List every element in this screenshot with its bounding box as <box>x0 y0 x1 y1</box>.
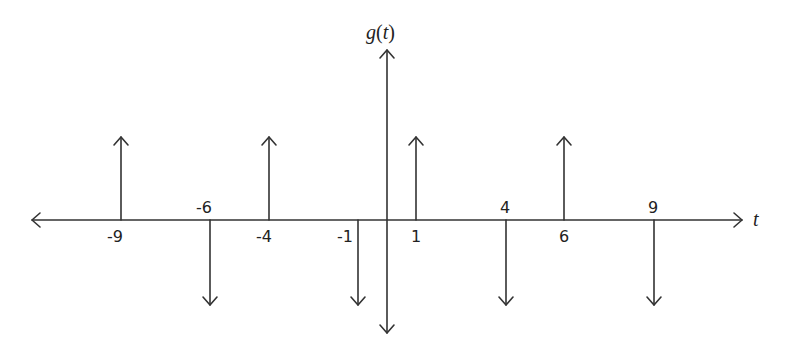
impulse-9 <box>647 220 661 305</box>
tick-label-6: 6 <box>559 229 569 245</box>
tick-label-9: 9 <box>648 200 658 216</box>
impulse-1 <box>409 137 423 220</box>
tick-label-neg6: -6 <box>196 200 212 216</box>
tick-label-neg1: -1 <box>337 229 353 245</box>
impulse-diagram: g(t) t -9 -6 -4 -1 1 4 6 9 <box>0 0 787 353</box>
x-axis-title: t <box>753 209 759 229</box>
tick-label-4: 4 <box>500 200 510 216</box>
tick-label-neg4: -4 <box>256 229 272 245</box>
impulse-neg1 <box>351 220 365 305</box>
impulse-6 <box>557 137 571 220</box>
impulse-neg9 <box>114 137 128 220</box>
y-axis-func: g <box>366 21 376 43</box>
diagram-svg <box>0 0 787 353</box>
tick-label-neg9: -9 <box>107 229 123 245</box>
impulse-4 <box>499 220 513 305</box>
impulse-neg6 <box>203 220 217 305</box>
y-axis-title: g(t) <box>366 22 395 42</box>
impulse-neg4 <box>262 137 276 220</box>
tick-label-1: 1 <box>411 229 421 245</box>
